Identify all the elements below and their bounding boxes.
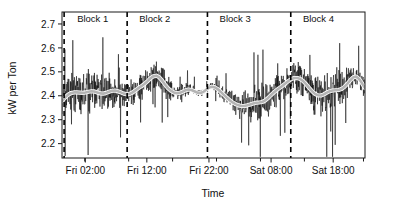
x-tick-label: Fri 22:00	[189, 165, 229, 176]
x-axis-group: Fri 02:00Fri 12:00Fri 22:00Sat 08:00Sat …	[66, 158, 364, 176]
y-tick-label: 2.3	[41, 114, 55, 125]
chart-canvas: 2.22.32.42.52.62.7 Fri 02:00Fri 12:00Fri…	[0, 0, 398, 207]
y-tick-label: 2.7	[41, 19, 55, 30]
y-axis-title: kW per Ton	[6, 61, 18, 114]
y-tick-label: 2.2	[41, 138, 55, 149]
x-axis-title: Time	[202, 187, 225, 199]
y-tick-label: 2.6	[41, 43, 55, 54]
block-4-label: Block 4	[303, 13, 334, 24]
block-2-label: Block 2	[139, 13, 170, 24]
x-tick-label: Sat 18:00	[312, 165, 355, 176]
y-tick-label: 2.5	[41, 66, 55, 77]
x-tick-label: Fri 12:00	[127, 165, 167, 176]
block-1-label: Block 1	[77, 13, 108, 24]
x-tick-label: Fri 02:00	[66, 165, 106, 176]
y-tick-label: 2.4	[41, 90, 55, 101]
x-tick-label: Sat 08:00	[250, 165, 293, 176]
block-3-label: Block 3	[220, 13, 251, 24]
chart-figure: 2.22.32.42.52.62.7 Fri 02:00Fri 12:00Fri…	[0, 0, 398, 207]
y-axis-group: 2.22.32.42.52.62.7	[41, 19, 62, 150]
